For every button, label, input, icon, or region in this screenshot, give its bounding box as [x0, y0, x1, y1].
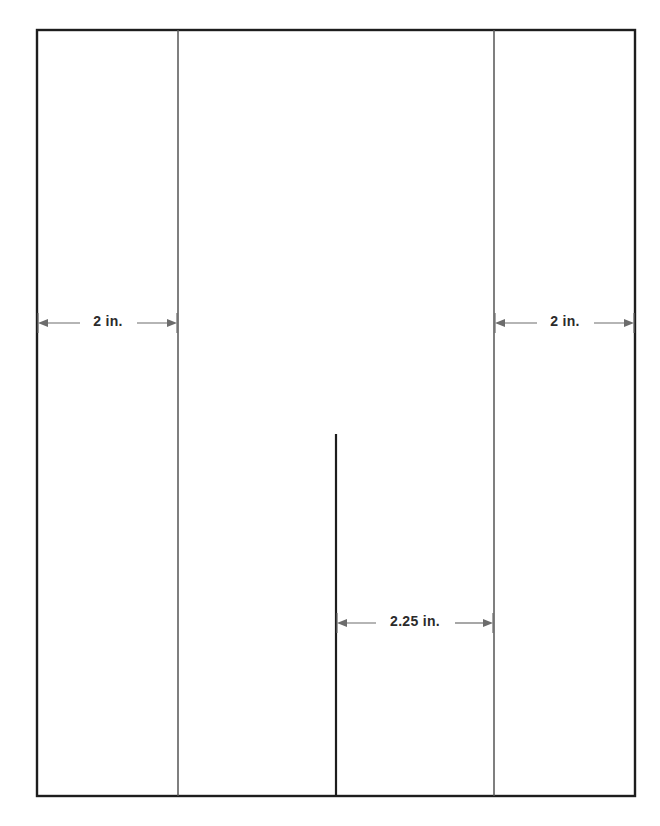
dimension-center-arrowhead-end-icon — [483, 619, 493, 627]
dimension-left-arrowhead-start-icon — [38, 319, 48, 327]
dimension-center-label: 2.25 in. — [390, 613, 440, 629]
dimension-right-panel-width: 2 in. — [495, 313, 634, 333]
dimension-center-arrowhead-start-icon — [337, 619, 347, 627]
diagram-canvas: 2 in. 2 in. 2.25 in. — [0, 0, 660, 826]
panel-dimension-diagram: 2 in. 2 in. 2.25 in. — [0, 0, 660, 826]
dimension-right-label: 2 in. — [550, 313, 580, 329]
dimension-left-panel-width: 2 in. — [38, 313, 177, 333]
dimension-center-flap-width: 2.25 in. — [337, 613, 493, 633]
dimension-right-arrowhead-start-icon — [495, 319, 505, 327]
dimension-left-arrowhead-end-icon — [167, 319, 177, 327]
dimension-right-arrowhead-end-icon — [624, 319, 634, 327]
dimension-left-label: 2 in. — [93, 313, 123, 329]
